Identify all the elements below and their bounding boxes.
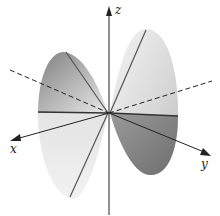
left-cone-nappe (38, 52, 108, 199)
double-cone-figure: z x y (0, 0, 220, 216)
x-axis-label: x (10, 142, 17, 156)
y-axis-arrow (200, 148, 211, 156)
cone-diagram (0, 0, 220, 216)
x-axis-arrow (10, 134, 21, 141)
z-axis-arrow (106, 6, 112, 16)
y-axis-label: y (201, 157, 208, 171)
z-axis-label: z (115, 3, 121, 17)
